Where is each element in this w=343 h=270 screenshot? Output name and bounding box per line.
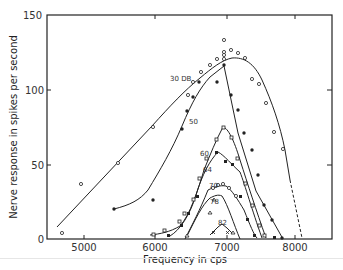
label-60: 60	[200, 150, 209, 158]
label-30db: 30 DB	[170, 75, 192, 83]
x-tick-8000: 8000	[282, 242, 307, 253]
y-axis	[47, 90, 332, 165]
label-78: 78	[210, 198, 219, 206]
x-tick-5000: 5000	[71, 242, 96, 253]
divider	[0, 258, 343, 259]
label-50: 50	[189, 118, 198, 126]
x-axis-title: Frequency in cps	[143, 254, 227, 265]
plot-frame	[47, 15, 332, 239]
y-tick-0: 0	[38, 234, 44, 245]
label-64: 64	[203, 166, 212, 174]
markers-82	[212, 231, 229, 234]
x-tick-7000: 7000	[214, 242, 239, 253]
y-tick-150: 150	[23, 10, 42, 21]
y-axis-title: Nerve response in spikes per second	[8, 35, 19, 219]
label-82: 82	[218, 219, 227, 227]
curve-30db-extrapolated	[290, 180, 302, 238]
tuning-curve-chart: 150 100 50 0 5000 6000 7000 8000 Frequen…	[0, 0, 343, 270]
y-tick-50: 50	[31, 160, 44, 171]
x-tick-6000: 6000	[142, 242, 167, 253]
label-70: 70	[209, 182, 218, 190]
y-tick-100: 100	[25, 85, 44, 96]
curve-30db	[57, 58, 290, 227]
